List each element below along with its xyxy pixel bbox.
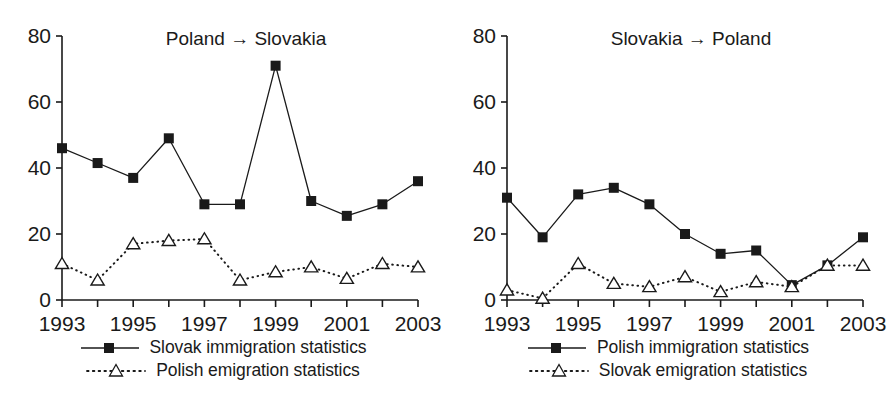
data-point-marker (680, 229, 690, 239)
data-point-marker (750, 276, 763, 287)
data-point-marker (269, 266, 282, 277)
chart-canvas-left: Poland → Slovakia02040608019931995199719… (0, 0, 445, 336)
data-point-marker (644, 199, 654, 209)
x-tick-label: 2001 (323, 312, 370, 335)
legend-key-open-triangle-dotted (85, 362, 147, 380)
y-tick-label: 0 (484, 288, 496, 311)
data-point-marker (538, 232, 548, 242)
data-point-marker (500, 284, 513, 295)
series-line (62, 66, 418, 216)
data-point-marker (128, 173, 138, 183)
data-point-marker (164, 133, 174, 143)
figure-root: Poland → Slovakia02040608019931995199719… (0, 0, 890, 407)
data-point-marker (714, 286, 727, 297)
data-point-marker (858, 232, 868, 242)
chart-panel-poland-to-slovakia: Poland → Slovakia02040608019931995199719… (0, 0, 445, 407)
data-point-marker (609, 183, 619, 193)
legend-key-open-triangle-dotted (528, 362, 590, 380)
y-tick-label: 40 (473, 156, 496, 179)
x-tick-label: 1993 (484, 312, 531, 335)
x-tick-label: 1999 (252, 312, 299, 335)
data-point-marker (716, 249, 726, 259)
legend-label-polish-immigration: Polish immigration statistics (597, 337, 809, 358)
legend-key-filled-square-solid (526, 339, 588, 357)
data-point-marker (233, 274, 246, 285)
chart-title: Poland → Slovakia (166, 28, 327, 49)
y-tick-label: 40 (28, 156, 51, 179)
x-tick-label: 1993 (39, 312, 86, 335)
data-point-marker (607, 277, 620, 288)
x-tick-label: 2003 (395, 312, 442, 335)
legend-label-slovak-emigration: Slovak emigration statistics (599, 360, 807, 381)
x-tick-label: 1997 (626, 312, 673, 335)
legend-item-slovak-emigration: Slovak emigration statistics (528, 359, 807, 382)
legend-label-slovak-immigration: Slovak immigration statistics (150, 337, 367, 358)
y-tick-label: 0 (39, 288, 51, 311)
data-point-marker (306, 196, 316, 206)
x-tick-label: 2003 (840, 312, 887, 335)
data-point-marker (678, 271, 691, 282)
data-point-marker (856, 259, 869, 270)
y-tick-label: 60 (28, 90, 51, 113)
chart-canvas-right: Slovakia → Poland02040608019931995199719… (445, 0, 890, 336)
legend-right: Polish immigration statistics Slovak emi… (445, 336, 890, 382)
y-tick-label: 60 (473, 90, 496, 113)
data-point-marker (305, 261, 318, 272)
data-point-marker (340, 272, 353, 283)
data-point-marker (57, 143, 67, 153)
data-point-marker (751, 246, 761, 256)
x-tick-label: 1995 (555, 312, 602, 335)
data-point-marker (413, 176, 423, 186)
data-point-marker (199, 199, 209, 209)
legend-key-filled-square-solid (79, 339, 141, 357)
data-point-marker (572, 258, 585, 269)
data-point-marker (502, 193, 512, 203)
data-point-marker (377, 199, 387, 209)
y-tick-label: 20 (473, 222, 496, 245)
data-point-marker (55, 258, 68, 269)
x-tick-label: 2001 (768, 312, 815, 335)
legend-item-slovak-immigration: Slovak immigration statistics (79, 336, 367, 359)
data-point-marker (235, 199, 245, 209)
chart-title: Slovakia → Poland (611, 28, 772, 49)
legend-left: Slovak immigration statistics Polish emi… (0, 336, 445, 382)
data-point-marker (93, 158, 103, 168)
x-tick-label: 1999 (697, 312, 744, 335)
legend-item-polish-immigration: Polish immigration statistics (526, 336, 809, 359)
data-point-marker (91, 274, 104, 285)
data-point-marker (376, 258, 389, 269)
legend-item-polish-emigration: Polish emigration statistics (85, 359, 359, 382)
data-point-marker (573, 189, 583, 199)
x-tick-label: 1997 (181, 312, 228, 335)
chart-panel-slovakia-to-poland: Slovakia → Poland02040608019931995199719… (445, 0, 890, 407)
legend-label-polish-emigration: Polish emigration statistics (156, 360, 359, 381)
data-point-marker (271, 61, 281, 71)
y-tick-label: 80 (28, 24, 51, 47)
x-tick-label: 1995 (110, 312, 157, 335)
y-tick-label: 80 (473, 24, 496, 47)
y-tick-label: 20 (28, 222, 51, 245)
data-point-marker (342, 211, 352, 221)
